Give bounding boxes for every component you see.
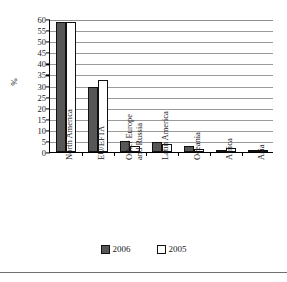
x-axis-label: Africa — [225, 138, 235, 160]
x-tick-mark — [242, 152, 243, 156]
x-tick-mark — [146, 152, 147, 156]
legend-item-2006[interactable]: 2006 — [101, 245, 131, 254]
y-tick-label: 40 — [4, 59, 46, 69]
bar-group — [242, 20, 274, 152]
legend-label: 2006 — [113, 245, 131, 254]
bottom-divider — [0, 272, 287, 273]
y-tick-label: 15 — [4, 115, 46, 125]
y-tick-mark — [46, 152, 50, 153]
bar-group — [210, 20, 242, 152]
legend-swatch-icon — [101, 245, 110, 254]
y-tick-label: 45 — [4, 48, 46, 58]
x-axis-label: EU/EFTA — [97, 126, 107, 160]
y-tick-label: 50 — [4, 37, 46, 47]
y-tick-label: 20 — [4, 104, 46, 114]
x-tick-mark — [82, 152, 83, 156]
x-axis-label: Asia — [257, 144, 267, 160]
y-tick-label: 0 — [4, 148, 46, 158]
x-axis-label: Oceania — [193, 132, 203, 160]
x-axis-label: Other Europeand Russia — [125, 114, 144, 160]
x-axis-label: Latin America — [161, 111, 171, 160]
legend-item-2005[interactable]: 2005 — [157, 245, 187, 254]
x-tick-mark — [114, 152, 115, 156]
legend-swatch-icon — [157, 245, 166, 254]
y-tick-label: 30 — [4, 82, 46, 92]
legend-label: 2005 — [169, 245, 187, 254]
x-tick-mark — [178, 152, 179, 156]
y-tick-label: 35 — [4, 70, 46, 80]
chart-legend: 20062005 — [0, 245, 287, 254]
x-tick-mark — [210, 152, 211, 156]
y-tick-label: 55 — [4, 26, 46, 36]
bar-chart: % 051015202530354045505560 North America… — [0, 0, 287, 282]
x-axis-label: North America — [65, 109, 75, 160]
y-tick-label: 5 — [4, 137, 46, 147]
y-tick-label: 25 — [4, 93, 46, 103]
y-tick-label: 10 — [4, 126, 46, 136]
y-tick-label: 60 — [4, 15, 46, 25]
